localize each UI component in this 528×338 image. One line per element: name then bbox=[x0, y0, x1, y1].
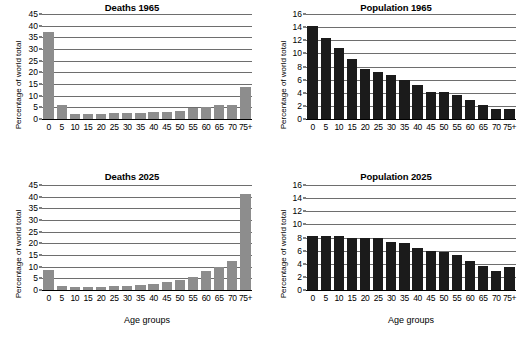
bar-70[interactable] bbox=[226, 185, 239, 290]
x-tick-label: 35 bbox=[398, 122, 411, 132]
bar-10[interactable] bbox=[332, 14, 345, 119]
bar-35[interactable] bbox=[134, 185, 147, 290]
bar-45[interactable] bbox=[424, 14, 437, 119]
bar-25[interactable] bbox=[372, 185, 385, 290]
x-tick-label: 20 bbox=[359, 122, 372, 132]
x-tick-label: 45 bbox=[160, 122, 173, 132]
x-tick-label: 45 bbox=[424, 122, 437, 132]
bar-5[interactable] bbox=[319, 14, 332, 119]
bar-rect bbox=[227, 261, 237, 290]
y-axis-label: Percentage of world total bbox=[279, 202, 288, 306]
bar-15[interactable] bbox=[81, 14, 94, 119]
bar-50[interactable] bbox=[173, 14, 186, 119]
bar-40[interactable] bbox=[411, 14, 424, 119]
bar-15[interactable] bbox=[81, 185, 94, 290]
x-tick-label: 25 bbox=[372, 293, 385, 303]
bar-75+[interactable] bbox=[239, 185, 252, 290]
x-tick-label: 60 bbox=[464, 122, 477, 132]
bar-70[interactable] bbox=[490, 14, 503, 119]
y-tick-label: 0 bbox=[297, 114, 302, 124]
bar-40[interactable] bbox=[147, 185, 160, 290]
bar-10[interactable] bbox=[68, 14, 81, 119]
bar-50[interactable] bbox=[437, 14, 450, 119]
bar-65[interactable] bbox=[213, 14, 226, 119]
bar-65[interactable] bbox=[477, 14, 490, 119]
x-tick-label: 55 bbox=[450, 293, 463, 303]
x-tick-label: 20 bbox=[95, 122, 108, 132]
bar-0[interactable] bbox=[42, 185, 55, 290]
bar-20[interactable] bbox=[95, 185, 108, 290]
bar-50[interactable] bbox=[437, 185, 450, 290]
bar-5[interactable] bbox=[319, 185, 332, 290]
y-tick-label: 4 bbox=[297, 88, 302, 98]
bar-30[interactable] bbox=[385, 185, 398, 290]
bar-55[interactable] bbox=[186, 14, 199, 119]
bar-rect bbox=[321, 38, 331, 119]
y-tick-label: 45 bbox=[29, 9, 38, 19]
bar-70[interactable] bbox=[226, 14, 239, 119]
bar-rect bbox=[347, 59, 357, 119]
bar-35[interactable] bbox=[398, 185, 411, 290]
bar-60[interactable] bbox=[464, 14, 477, 119]
bar-65[interactable] bbox=[477, 185, 490, 290]
bar-55[interactable] bbox=[450, 185, 463, 290]
bar-50[interactable] bbox=[173, 185, 186, 290]
bar-0[interactable] bbox=[306, 185, 319, 290]
bar-25[interactable] bbox=[108, 185, 121, 290]
bar-rect bbox=[452, 255, 462, 290]
bar-55[interactable] bbox=[450, 14, 463, 119]
bar-10[interactable] bbox=[332, 185, 345, 290]
bar-rect bbox=[412, 85, 422, 119]
bar-0[interactable] bbox=[306, 14, 319, 119]
bar-30[interactable] bbox=[121, 14, 134, 119]
bar-15[interactable] bbox=[345, 185, 358, 290]
y-tick-label: 5 bbox=[33, 102, 38, 112]
x-tick-label: 55 bbox=[450, 122, 463, 132]
bar-60[interactable] bbox=[200, 14, 213, 119]
panel-deaths-1965: Deaths 1965 Percentage of world total 05… bbox=[0, 0, 264, 169]
bar-rect bbox=[504, 109, 514, 120]
bar-45[interactable] bbox=[424, 185, 437, 290]
bar-60[interactable] bbox=[200, 185, 213, 290]
panel-deaths-2025: Deaths 2025 Percentage of world total 05… bbox=[0, 169, 264, 338]
x-tick-label: 30 bbox=[385, 293, 398, 303]
bar-rect bbox=[175, 280, 185, 290]
bar-10[interactable] bbox=[68, 185, 81, 290]
bar-0[interactable] bbox=[42, 14, 55, 119]
y-tick-label: 4 bbox=[297, 259, 302, 269]
bar-40[interactable] bbox=[147, 14, 160, 119]
bar-40[interactable] bbox=[411, 185, 424, 290]
bar-15[interactable] bbox=[345, 14, 358, 119]
bar-60[interactable] bbox=[464, 185, 477, 290]
y-axis-label: Percentage of world total bbox=[14, 202, 23, 306]
bar-45[interactable] bbox=[160, 14, 173, 119]
x-tick-label: 5 bbox=[319, 122, 332, 132]
bar-70[interactable] bbox=[490, 185, 503, 290]
bar-20[interactable] bbox=[95, 14, 108, 119]
bar-55[interactable] bbox=[186, 185, 199, 290]
bar-20[interactable] bbox=[359, 14, 372, 119]
y-tick-label: 15 bbox=[29, 79, 38, 89]
bar-25[interactable] bbox=[108, 14, 121, 119]
bar-65[interactable] bbox=[213, 185, 226, 290]
bar-25[interactable] bbox=[372, 14, 385, 119]
bar-30[interactable] bbox=[385, 14, 398, 119]
bar-35[interactable] bbox=[134, 14, 147, 119]
bar-45[interactable] bbox=[160, 185, 173, 290]
bar-rect bbox=[491, 109, 501, 120]
bar-35[interactable] bbox=[398, 14, 411, 119]
plot-area: 0246810121416 bbox=[306, 14, 516, 119]
bar-30[interactable] bbox=[121, 185, 134, 290]
x-tick-label: 30 bbox=[385, 122, 398, 132]
bar-75+[interactable] bbox=[503, 185, 516, 290]
bar-5[interactable] bbox=[55, 14, 68, 119]
y-tick-label: 12 bbox=[293, 35, 302, 45]
bar-75+[interactable] bbox=[239, 14, 252, 119]
bar-5[interactable] bbox=[55, 185, 68, 290]
bar-series bbox=[42, 185, 252, 290]
bar-20[interactable] bbox=[359, 185, 372, 290]
x-tick-label: 45 bbox=[160, 293, 173, 303]
y-tick-label: 10 bbox=[293, 219, 302, 229]
bar-75+[interactable] bbox=[503, 14, 516, 119]
x-axis-label: Age groups bbox=[42, 315, 252, 325]
